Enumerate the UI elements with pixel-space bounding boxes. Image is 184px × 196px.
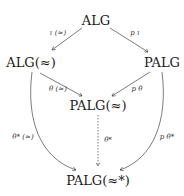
node-palg: PALG: [144, 55, 180, 70]
label-p-theta: p θ: [132, 85, 143, 93]
label-theta-star-approx: θ* (≈): [12, 133, 33, 141]
label-iota-approx: ι (≈): [50, 29, 66, 37]
node-palg-approx: PALG(≈): [70, 98, 127, 113]
label-p-theta-star: p θ*: [160, 133, 174, 141]
label-theta-approx: θ (≈): [49, 85, 67, 93]
node-alg-approx: ALG(≈): [6, 55, 55, 70]
arrow-p-iota: [110, 28, 148, 52]
node-palg-approx-star: PALG(≈*): [66, 173, 130, 188]
label-p-iota: p ι: [130, 29, 139, 37]
label-theta-star: θ*: [104, 136, 112, 144]
node-alg: ALG: [82, 13, 110, 28]
